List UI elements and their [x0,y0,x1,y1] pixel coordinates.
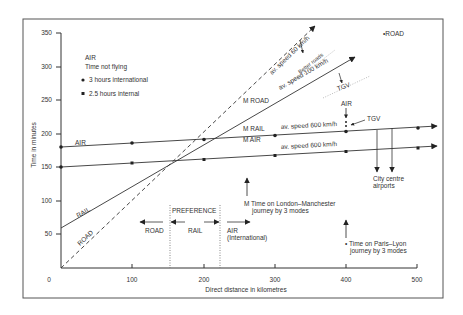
air-marker-label: AIR [341,100,352,107]
tgv-label-upper: TGV [336,81,352,92]
y-tick-100: 100 [41,197,52,204]
tgv-marker-arrow [351,120,365,125]
speed-600-upper: av. speed 600 km/h [281,120,338,131]
speed-600-lower: av. speed 600 km/h [281,140,338,151]
m-air-label: M AIR [243,136,261,143]
legend-entry-1: 3 hours international [89,76,148,83]
y-tick-200: 200 [41,130,52,137]
x-tick-200: 200 [199,276,210,283]
pref-road-label: ROAD [145,227,164,234]
x-tick-400: 400 [341,276,352,283]
x-tick-0: 0 [47,276,51,283]
pref-air-label: AIR [227,227,238,234]
paris-air-point [345,121,347,123]
y-axis-label: Time in minutes [30,121,37,167]
y-tick-150: 150 [41,163,52,170]
lm-note-2: journey by 3 modes [251,207,309,215]
preference-label: PREFERENCE [172,207,217,214]
legend-square-marker [82,92,85,95]
m-road-label: M ROAD [243,97,269,104]
road-line-label: ROAD [76,228,95,246]
legend-entry-2: 2.5 hours internal [89,90,140,97]
lm-note-1: M Time on London–Manchester [244,200,336,207]
pref-air-sublabel: (International) [227,234,267,242]
pl-note-2: journey by 3 modes [349,247,407,255]
y-tick-300: 300 [41,63,52,70]
legend-subtitle: Time not flying [85,63,127,71]
y-tick-350: 350 [41,29,52,36]
y-tick-250: 250 [41,96,52,103]
rail-line-label: RAIL [75,205,91,218]
chart: 350 300 250 200 150 100 50 Time in minut… [0,0,463,315]
x-tick-100: 100 [127,276,138,283]
y-tick-50: 50 [45,230,53,237]
x-tick-300: 300 [270,276,281,283]
paris-tgv-point [345,125,347,127]
m-rail-label: M RAIL [243,125,265,132]
y-ticks [56,33,61,234]
air-25h-line [61,146,437,167]
city-centre-label-2: airports [373,182,395,190]
pref-rail-label: RAIL [188,227,203,234]
x-ticks [132,264,417,268]
x-tick-500: 500 [412,276,423,283]
tgv-arrow [339,73,342,83]
x-axis-label: Direct distance in kilometres [205,286,287,293]
air-line-label: AIR [75,139,86,146]
tgv-marker-label: TGV [367,115,381,122]
legend-title: AIR [85,54,96,61]
paris-road-marker: •ROAD [383,30,404,37]
legend-circle-marker [81,78,84,81]
